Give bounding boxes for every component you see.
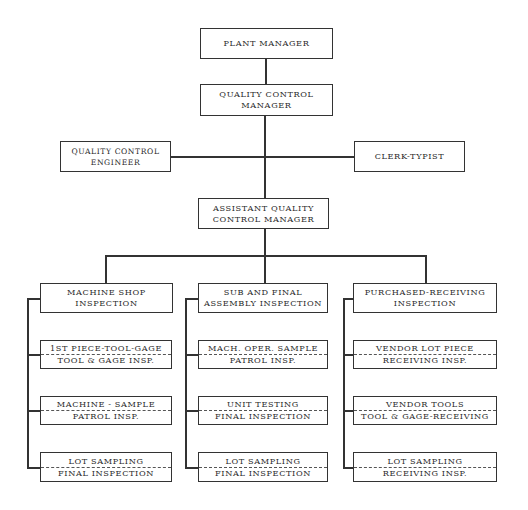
connector-staff-horizontal	[170, 156, 354, 158]
node-label: MACH. OPER. SAMPLE	[199, 343, 327, 355]
node-label: LOT SAMPLING	[354, 456, 496, 468]
col1-tick-2	[27, 410, 40, 412]
node-label: LOT SAMPLING	[199, 456, 327, 468]
node-label: PURCHASED-RECEIVING	[365, 287, 486, 298]
connector-plant-to-qcm	[265, 58, 267, 84]
node-label: CONTROL MANAGER	[213, 214, 315, 225]
node-label: RECEIVING INSP.	[383, 355, 468, 366]
node-label: TOOL & GAGE INSP.	[57, 355, 154, 366]
node-col2-item-2: UNIT TESTING FINAL INSPECTION	[198, 396, 328, 425]
node-col2-item-3: LOT SAMPLING FINAL INSPECTION	[198, 452, 328, 482]
node-col3-item-1: VENDOR LOT PIECE RECEIVING INSP.	[353, 340, 497, 369]
node-col1-item-2: MACHINE - SAMPLE PATROL INSP.	[40, 396, 172, 425]
node-col1-item-3: LOT SAMPLING FINAL INSPECTION	[40, 452, 172, 482]
node-label: PATROL INSP.	[230, 355, 296, 366]
node-label: RECEIVING INSP.	[383, 468, 468, 479]
node-label: SUB AND FINAL	[224, 287, 303, 298]
node-label: MACHINE SHOP	[67, 287, 146, 298]
connector-asst-down	[264, 228, 266, 256]
col2-tick-3	[185, 467, 198, 469]
node-label: ASSISTANT QUALITY	[213, 203, 314, 214]
node-label: UNIT TESTING	[199, 399, 327, 411]
node-label: 1ST PIECE-TOOL-GAGE	[41, 343, 171, 355]
node-col2-item-1: MACH. OPER. SAMPLE PATROL INSP.	[198, 340, 328, 369]
node-qc-manager: QUALITY CONTROL MANAGER	[200, 84, 333, 116]
node-col3-item-3: LOT SAMPLING RECEIVING INSP.	[353, 452, 497, 482]
node-label: PLANT MANAGER	[224, 38, 310, 49]
col1-tick-header	[27, 298, 40, 300]
node-machine-shop-inspection: MACHINE SHOP INSPECTION	[40, 283, 173, 313]
node-label: PATROL INSP.	[73, 411, 139, 422]
node-label: QUALITY CONTROL	[71, 146, 159, 157]
node-plant-manager: PLANT MANAGER	[200, 28, 333, 59]
col1-tick-1	[27, 354, 40, 356]
node-col3-item-2: VENDOR TOOLS TOOL & GAGE-RECEIVING	[353, 396, 497, 425]
node-qc-engineer: QUALITY CONTROL ENGINEER	[60, 141, 171, 172]
node-label: VENDOR TOOLS	[354, 399, 496, 411]
node-label: ENGINEER	[91, 157, 141, 168]
col2-spine	[185, 298, 187, 468]
connector-col1-down	[105, 255, 107, 283]
node-label: INSPECTION	[394, 298, 456, 309]
node-label: TOOL & GAGE-RECEIVING	[361, 411, 489, 422]
node-label: INSPECTION	[75, 298, 137, 309]
col3-spine	[343, 298, 345, 468]
col1-spine	[27, 298, 29, 468]
node-label: FINAL INSPECTION	[215, 468, 311, 479]
node-label: FINAL INSPECTION	[215, 411, 311, 422]
node-clerk-typist: CLERK-TYPIST	[354, 141, 465, 172]
node-label: MACHINE - SAMPLE	[41, 399, 171, 411]
node-label: VENDOR LOT PIECE	[354, 343, 496, 355]
node-label: QUALITY CONTROL	[219, 89, 313, 100]
col1-tick-3	[27, 467, 40, 469]
node-col1-item-1: 1ST PIECE-TOOL-GAGE TOOL & GAGE INSP.	[40, 340, 172, 369]
connector-branch-horizontal	[105, 255, 426, 257]
node-purchased-receiving-inspection: PURCHASED-RECEIVING INSPECTION	[353, 283, 497, 313]
node-label: ASSEMBLY INSPECTION	[204, 298, 322, 309]
node-asst-qc-manager: ASSISTANT QUALITY CONTROL MANAGER	[198, 198, 329, 229]
col2-tick-2	[185, 410, 198, 412]
node-label: MANAGER	[241, 100, 291, 111]
connector-col2-down	[264, 255, 266, 283]
node-label: LOT SAMPLING	[41, 456, 171, 468]
col2-tick-1	[185, 354, 198, 356]
node-label: CLERK-TYPIST	[375, 151, 445, 162]
node-label: FINAL INSPECTION	[58, 468, 154, 479]
node-sub-final-assembly-inspection: SUB AND FINAL ASSEMBLY INSPECTION	[198, 283, 328, 313]
col2-tick-header	[185, 298, 198, 300]
connector-col3-down	[425, 255, 427, 283]
